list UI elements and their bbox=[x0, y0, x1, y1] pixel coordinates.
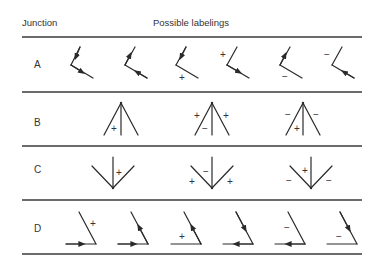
svg-text:−: − bbox=[285, 109, 291, 120]
row-d-labelings: + + − − bbox=[66, 212, 357, 244]
svg-text:+: + bbox=[179, 72, 185, 83]
svg-text:−: − bbox=[313, 109, 319, 120]
svg-text:+: + bbox=[194, 110, 200, 121]
svg-text:−: − bbox=[326, 175, 332, 186]
svg-text:−: − bbox=[282, 71, 288, 82]
svg-text:+: + bbox=[179, 231, 185, 242]
d4-l-junction bbox=[223, 212, 253, 244]
junction-labeling-diagram: + + − − + bbox=[0, 0, 377, 266]
svg-text:+: + bbox=[90, 218, 96, 229]
svg-text:+: + bbox=[116, 167, 122, 178]
row-c-labelings: + − + + + − − bbox=[92, 157, 332, 189]
b3-arrow-junction: − + − bbox=[285, 102, 320, 135]
a2-l-junction bbox=[125, 47, 147, 78]
row-a-labelings: + + − − bbox=[71, 47, 354, 83]
a1-l-junction bbox=[71, 47, 93, 78]
svg-text:−: − bbox=[202, 123, 208, 134]
svg-text:+: + bbox=[223, 110, 229, 121]
d3-l-junction: + bbox=[171, 212, 201, 244]
svg-text:−: − bbox=[324, 49, 330, 60]
a3-l-junction: + bbox=[176, 47, 198, 83]
row-b-labelings: + + − + − + − bbox=[104, 102, 320, 135]
svg-text:−: − bbox=[284, 222, 290, 233]
svg-text:−: − bbox=[286, 175, 292, 186]
svg-text:−: − bbox=[336, 231, 342, 242]
d1-l-junction: + bbox=[66, 212, 96, 244]
d6-l-junction: − bbox=[327, 212, 357, 244]
svg-text:+: + bbox=[189, 176, 195, 187]
b1-arrow-junction: + bbox=[104, 102, 138, 135]
a6-l-junction: − bbox=[324, 47, 354, 78]
d2-l-junction bbox=[118, 212, 148, 244]
table-rules bbox=[22, 37, 362, 254]
svg-text:−: − bbox=[203, 166, 209, 177]
a5-l-junction: − bbox=[280, 47, 302, 82]
d5-l-junction: − bbox=[275, 212, 305, 244]
c3-fork-junction: + − − bbox=[286, 157, 332, 189]
b2-arrow-junction: + − + bbox=[194, 102, 229, 135]
c1-fork-junction: + bbox=[92, 157, 134, 189]
svg-text:+: + bbox=[220, 49, 226, 60]
c2-fork-junction: − + + bbox=[189, 157, 233, 189]
svg-text:+: + bbox=[111, 123, 117, 134]
svg-text:+: + bbox=[227, 176, 233, 187]
a4-l-junction: + bbox=[220, 47, 249, 78]
svg-text:+: + bbox=[302, 165, 308, 176]
svg-text:+: + bbox=[294, 123, 300, 134]
